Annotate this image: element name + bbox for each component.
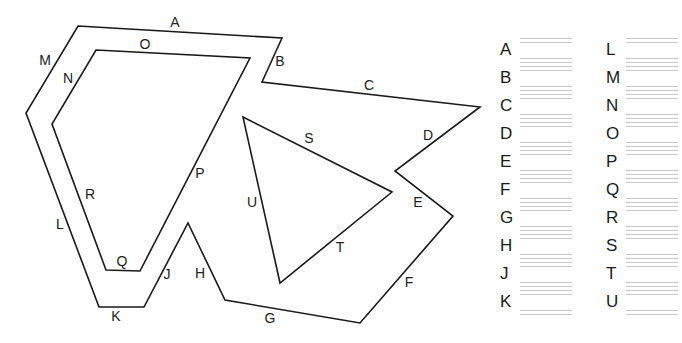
answer-row-n: N (606, 93, 682, 121)
answer-letter: D (500, 124, 520, 144)
edge-label-l: L (56, 216, 64, 232)
edge-label-j: J (164, 266, 171, 282)
answer-letter: A (500, 40, 520, 60)
answer-field-p[interactable] (626, 149, 678, 177)
triangle (243, 117, 392, 283)
answer-field-r[interactable] (626, 205, 678, 233)
answer-field-m[interactable] (626, 65, 678, 93)
answer-row-g: G (500, 205, 580, 233)
answer-field-f[interactable] (520, 177, 572, 205)
answer-row-r: R (606, 205, 682, 233)
answer-letter: L (606, 40, 626, 60)
answer-field-q[interactable] (626, 177, 678, 205)
answer-row-b: B (500, 65, 580, 93)
answer-row-o: O (606, 121, 682, 149)
answer-row-u: U (606, 289, 682, 317)
edge-label-o: O (140, 36, 151, 52)
answer-letter: T (606, 264, 626, 284)
answer-row-k: K (500, 289, 580, 317)
answer-row-l: L (606, 37, 682, 65)
edge-label-t: T (336, 239, 345, 255)
answer-field-k[interactable] (520, 289, 572, 317)
answer-letter: O (606, 124, 626, 144)
answer-field-h[interactable] (520, 233, 572, 261)
answer-row-e: E (500, 149, 580, 177)
answer-field-l[interactable] (626, 37, 678, 65)
answer-letter: G (500, 208, 520, 228)
answer-letter: B (500, 68, 520, 88)
answer-row-m: M (606, 65, 682, 93)
edge-label-u: U (247, 194, 257, 210)
answer-letter: N (606, 96, 626, 116)
answer-row-a: A (500, 37, 580, 65)
edge-label-h: H (195, 265, 205, 281)
answer-field-g[interactable] (520, 205, 572, 233)
edge-label-b: B (275, 53, 284, 69)
answer-column-right: LMNOPQRSTU (606, 37, 682, 317)
edge-labels: ABCDEFGHJKLMNOPQRSTU (39, 14, 433, 326)
answer-field-s[interactable] (626, 233, 678, 261)
answer-field-t[interactable] (626, 261, 678, 289)
inner-quadrilateral (52, 50, 250, 271)
edge-label-s: S (304, 130, 313, 146)
answer-field-n[interactable] (626, 93, 678, 121)
answer-row-q: Q (606, 177, 682, 205)
answer-letter: F (500, 180, 520, 200)
answer-row-d: D (500, 121, 580, 149)
answer-row-p: P (606, 149, 682, 177)
answer-letter: K (500, 292, 520, 312)
edge-label-p: P (195, 165, 204, 181)
answer-field-j[interactable] (520, 261, 572, 289)
edge-label-f: F (405, 274, 414, 290)
answer-letter: U (606, 292, 626, 312)
answer-row-c: C (500, 93, 580, 121)
answer-letter: R (606, 208, 626, 228)
answer-row-j: J (500, 261, 580, 289)
edge-label-m: M (39, 52, 51, 68)
edge-label-g: G (265, 310, 276, 326)
answer-letter: J (500, 264, 520, 284)
answer-column-left: ABCDEFGHJK (500, 37, 580, 317)
answer-field-c[interactable] (520, 93, 572, 121)
answer-letter: S (606, 236, 626, 256)
edge-label-c: C (364, 77, 374, 93)
answer-row-s: S (606, 233, 682, 261)
edge-label-r: R (85, 186, 95, 202)
answer-field-o[interactable] (626, 121, 678, 149)
answer-letter: Q (606, 180, 626, 200)
answer-field-b[interactable] (520, 65, 572, 93)
answer-row-f: F (500, 177, 580, 205)
edge-label-q: Q (117, 253, 128, 269)
answer-field-e[interactable] (520, 149, 572, 177)
answer-row-t: T (606, 261, 682, 289)
edge-label-n: N (63, 70, 73, 86)
answer-letter: M (606, 68, 626, 88)
answer-field-u[interactable] (626, 289, 678, 317)
answer-letter: P (606, 152, 626, 172)
edge-label-a: A (170, 14, 180, 30)
answer-row-h: H (500, 233, 580, 261)
answer-field-a[interactable] (520, 37, 572, 65)
edge-label-e: E (413, 194, 422, 210)
answer-letter: C (500, 96, 520, 116)
answer-letter: E (500, 152, 520, 172)
answer-letter: H (500, 236, 520, 256)
edge-label-k: K (111, 308, 121, 324)
answer-field-d[interactable] (520, 121, 572, 149)
edge-label-d: D (423, 127, 433, 143)
